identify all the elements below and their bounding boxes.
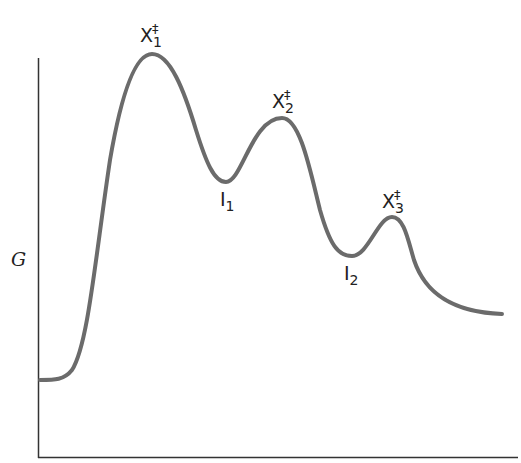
x2-sub: 2	[285, 100, 294, 116]
transition-state-3-label: X3‡	[382, 188, 400, 215]
i2-sub: 2	[350, 272, 359, 288]
x1-sup: ‡	[152, 21, 159, 36]
i1-sub: 1	[226, 198, 235, 214]
energy-curve	[40, 54, 502, 380]
energy-diagram	[0, 0, 521, 463]
x2-sup: ‡	[284, 87, 291, 102]
intermediate-1-label: I1	[220, 190, 235, 213]
x3-sub: 3	[395, 200, 404, 216]
transition-state-2-label: X2‡	[272, 88, 290, 115]
x3-sup: ‡	[394, 187, 401, 202]
intermediate-2-label: I2	[344, 264, 359, 287]
transition-state-1-label: X1‡	[140, 22, 158, 49]
x1-sub: 1	[153, 34, 162, 50]
y-axis-label: G	[11, 248, 26, 270]
